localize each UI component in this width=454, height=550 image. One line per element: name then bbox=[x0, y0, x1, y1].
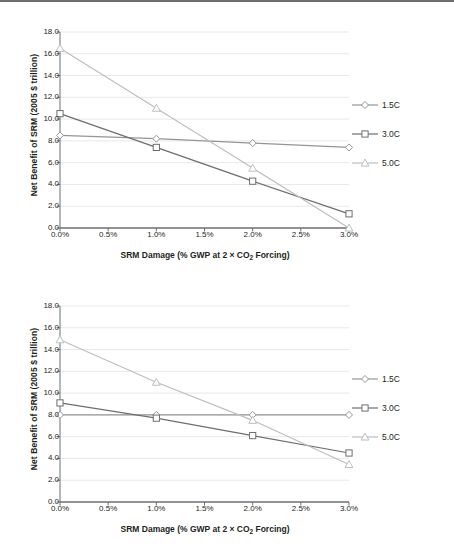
legend-bottom: 1.5C3.0C5.0C bbox=[352, 278, 452, 550]
x-tick-label: 2.5% bbox=[281, 505, 321, 513]
legend-top: 1.5C3.0C5.0C bbox=[352, 4, 452, 276]
legend-label: 1.5C bbox=[382, 374, 400, 384]
legend-label: 5.0C bbox=[382, 158, 400, 168]
x-tick-label: 1.5% bbox=[185, 231, 225, 239]
marker-diamond bbox=[362, 102, 369, 109]
marker-square bbox=[362, 405, 368, 411]
marker-square bbox=[250, 432, 256, 438]
series-line-1.5C bbox=[60, 135, 349, 147]
legend-item-1.5C[interactable]: 1.5C bbox=[352, 100, 400, 110]
marker-square bbox=[362, 131, 368, 137]
legend-item-5.0C[interactable]: 5.0C bbox=[352, 432, 400, 442]
x-axis-title-prefix: SRM Damage (% GWP at 2 × CO bbox=[121, 524, 250, 534]
x-tick-label: 0.0% bbox=[40, 505, 80, 513]
x-tick-label: 0.5% bbox=[88, 231, 128, 239]
plot-area-top: 18.016.014.012.010.08.06.04.02.00.0 0.0%… bbox=[0, 4, 454, 276]
legend-marker-diamond-icon bbox=[352, 100, 378, 110]
legend-marker bbox=[362, 405, 368, 411]
y-axis-title-bottom: Net Benefit of SRM (2005 $ trillion) bbox=[29, 299, 39, 499]
data-point-5.0C-1.0% bbox=[152, 104, 160, 111]
x-tick-label: 0.5% bbox=[88, 505, 128, 513]
plot-area-bottom: 18.016.014.012.010.08.06.04.02.00.0 0.0%… bbox=[0, 278, 454, 550]
chart-panel-top: 18.016.014.012.010.08.06.04.02.00.0 0.0%… bbox=[0, 4, 454, 276]
x-tick-label: 1.0% bbox=[136, 505, 176, 513]
legend-marker bbox=[362, 131, 368, 137]
series-line-3.0C bbox=[60, 114, 349, 214]
legend-marker-triangle-icon bbox=[352, 158, 378, 168]
marker-square bbox=[250, 178, 256, 184]
marker-triangle bbox=[249, 164, 257, 171]
legend-marker-triangle-icon bbox=[352, 432, 378, 442]
marker-square bbox=[153, 144, 159, 150]
marker-triangle bbox=[152, 104, 160, 111]
data-point-5.0C-1.0% bbox=[152, 378, 160, 385]
header-rule bbox=[0, 0, 454, 2]
data-point-3.0C-2.0% bbox=[250, 178, 256, 184]
legend-marker-square-icon bbox=[352, 129, 378, 139]
data-point-3.0C-1.0% bbox=[153, 415, 159, 421]
x-axis-title-suffix: Forcing) bbox=[253, 250, 289, 260]
data-point-3.0C-1.0% bbox=[153, 144, 159, 150]
legend-label: 1.5C bbox=[382, 100, 400, 110]
x-axis-title-suffix: Forcing) bbox=[253, 524, 289, 534]
chart-panel-bottom: 18.016.014.012.010.08.06.04.02.00.0 0.0%… bbox=[0, 278, 454, 550]
x-tick-label: 2.0% bbox=[233, 505, 273, 513]
marker-diamond bbox=[362, 376, 369, 383]
legend-label: 3.0C bbox=[382, 403, 400, 413]
legend-item-1.5C[interactable]: 1.5C bbox=[352, 374, 400, 384]
marker-triangle bbox=[249, 416, 257, 423]
legend-label: 3.0C bbox=[382, 129, 400, 139]
legend-item-3.0C[interactable]: 3.0C bbox=[352, 403, 400, 413]
data-point-5.0C-2.0% bbox=[249, 416, 257, 423]
x-tick-label: 2.5% bbox=[281, 231, 321, 239]
legend-label: 5.0C bbox=[382, 432, 400, 442]
legend-marker bbox=[362, 102, 369, 109]
legend-item-3.0C[interactable]: 3.0C bbox=[352, 129, 400, 139]
x-tick-label: 1.0% bbox=[136, 231, 176, 239]
x-tick-label: 1.5% bbox=[185, 505, 225, 513]
series-line-3.0C bbox=[60, 403, 349, 453]
data-point-3.0C-2.0% bbox=[250, 432, 256, 438]
legend-marker-diamond-icon bbox=[352, 374, 378, 384]
x-axis-title-bottom: SRM Damage (% GWP at 2 × CO2 Forcing) bbox=[60, 524, 350, 534]
legend-marker-square-icon bbox=[352, 403, 378, 413]
marker-triangle bbox=[152, 378, 160, 385]
legend-item-5.0C[interactable]: 5.0C bbox=[352, 158, 400, 168]
marker-square bbox=[153, 415, 159, 421]
data-point-5.0C-2.0% bbox=[249, 164, 257, 171]
x-tick-label: 0.0% bbox=[40, 231, 80, 239]
x-axis-title-prefix: SRM Damage (% GWP at 2 × CO bbox=[121, 250, 250, 260]
x-axis-title-subscript: 2 bbox=[250, 254, 254, 261]
x-tick-label: 2.0% bbox=[233, 231, 273, 239]
y-axis-title-top: Net Benefit of SRM (2005 $ trillion) bbox=[29, 25, 39, 225]
legend-marker bbox=[362, 376, 369, 383]
x-axis-title-subscript: 2 bbox=[250, 528, 254, 535]
x-axis-title-top: SRM Damage (% GWP at 2 × CO2 Forcing) bbox=[60, 250, 350, 260]
